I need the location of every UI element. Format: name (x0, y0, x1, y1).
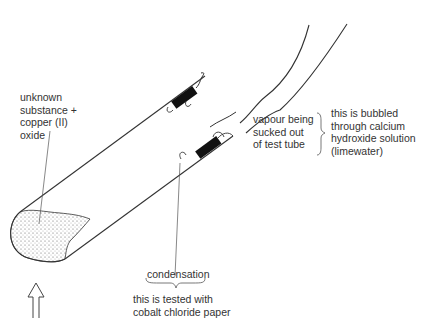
heat-arrow-icon (28, 283, 44, 318)
bubbled-label-line: through calcium (331, 120, 416, 133)
tested-label-line: cobalt chloride paper (133, 306, 230, 319)
test-tube-lower-wall (65, 136, 233, 259)
bubbled-label-line: (limewater) (331, 145, 416, 158)
vapour-label-line: sucked out (253, 126, 314, 139)
bubbled-label-line: hydroxide solution (331, 132, 416, 145)
apparatus-diagram (0, 0, 428, 319)
droplet-icon (167, 107, 173, 112)
tested-label-line: this is tested with (133, 293, 230, 306)
vapour-label: vapour being sucked out of test tube (253, 113, 314, 151)
substance-label-line: unknown (20, 91, 77, 104)
droplet-icon (180, 152, 186, 159)
substance-label-line: oxide (20, 129, 77, 142)
vapour-brace (317, 113, 325, 155)
condensation-pointer (175, 163, 180, 276)
condensation-label: condensation (147, 268, 209, 281)
tested-label: this is tested with cobalt chloride pape… (133, 293, 230, 318)
condensation-label-text: condensation (147, 268, 209, 281)
substance-label-line: copper (II) (20, 116, 77, 129)
bubbled-label-line: this is bubbled (331, 107, 416, 120)
powder-sample (11, 210, 90, 262)
substance-label-line: substance + (20, 104, 77, 117)
vapour-label-line: of test tube (253, 138, 314, 151)
delivery-tube-end (210, 112, 236, 127)
delivery-tube-upper (240, 25, 309, 123)
substance-pointer (39, 131, 50, 224)
droplet-icon (186, 101, 191, 106)
bubbled-label: this is bubbled through calcium hydroxid… (331, 107, 416, 157)
substance-label: unknown substance + copper (II) oxide (20, 91, 77, 141)
vapour-label-line: vapour being (253, 113, 314, 126)
